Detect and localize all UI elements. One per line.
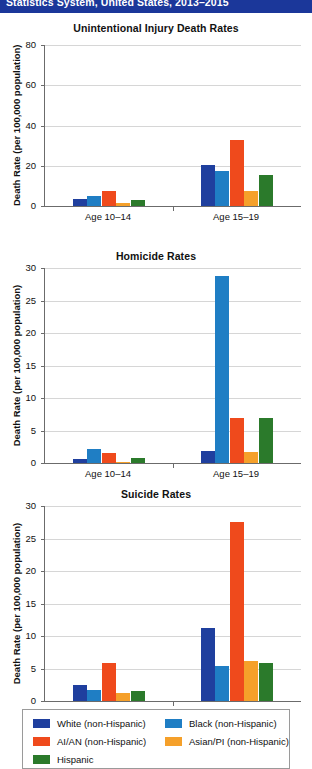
bar — [73, 459, 87, 463]
y-tick-label: 15 — [6, 360, 36, 371]
plot-area — [44, 45, 301, 207]
x-group-label: Age 15–19 — [172, 468, 300, 479]
y-tick-mark — [41, 85, 45, 86]
y-tick-mark — [41, 126, 45, 127]
bar — [244, 452, 258, 463]
y-tick-label: 20 — [6, 327, 36, 338]
y-tick-label: 0 — [6, 695, 36, 706]
chart-legend: White (non-Hispanic)Black (non-Hispanic)… — [22, 709, 290, 769]
legend-label: Asian/PI (non-Hispanic) — [189, 736, 289, 747]
y-tick-mark — [41, 669, 45, 670]
page-header-bar: Statistics System, United States, 2013–2… — [0, 0, 312, 13]
y-tick-mark — [41, 45, 45, 46]
legend-color-swatch — [33, 719, 50, 728]
bar — [259, 663, 273, 701]
bar — [201, 165, 215, 206]
legend-label: AI/AN (non-Hispanic) — [57, 736, 146, 747]
y-tick-label: 25 — [6, 295, 36, 306]
y-tick-mark — [41, 571, 45, 572]
y-tick-label: 5 — [6, 663, 36, 674]
bar — [131, 200, 145, 206]
y-tick-label: 60 — [6, 79, 36, 90]
gridline — [45, 398, 301, 399]
y-tick-mark — [41, 366, 45, 367]
gridline — [45, 636, 301, 637]
gridline — [45, 166, 301, 167]
bar — [244, 661, 258, 701]
legend-item: Asian/PI (non-Hispanic) — [165, 736, 289, 747]
legend-item: Hispanic — [33, 754, 93, 765]
y-tick-mark — [41, 333, 45, 334]
gridline — [45, 366, 301, 367]
bar — [230, 418, 244, 463]
bar — [102, 663, 116, 701]
gridline — [45, 45, 301, 46]
bar — [230, 140, 244, 206]
y-tick-mark — [41, 701, 45, 702]
y-tick-label: 10 — [6, 392, 36, 403]
y-tick-mark — [41, 636, 45, 637]
y-tick-label: 40 — [6, 120, 36, 131]
gridline — [45, 126, 301, 127]
legend-label: White (non-Hispanic) — [57, 718, 146, 729]
bar — [201, 451, 215, 463]
chart-title: Homicide Rates — [0, 250, 312, 262]
gridline — [45, 301, 301, 302]
legend-item: Black (non-Hispanic) — [165, 718, 277, 729]
bar — [73, 199, 87, 206]
bar — [102, 191, 116, 206]
bar — [87, 196, 101, 206]
gridline — [45, 85, 301, 86]
y-tick-mark — [41, 166, 45, 167]
x-axis-group-separator — [173, 207, 174, 211]
gridline — [45, 333, 301, 334]
chart-title: Unintentional Injury Death Rates — [0, 22, 312, 34]
page-header-title: Statistics System, United States, 2013–2… — [6, 0, 229, 8]
y-tick-mark — [41, 506, 45, 507]
y-tick-label: 0 — [6, 457, 36, 468]
bar — [201, 628, 215, 701]
gridline — [45, 604, 301, 605]
bar — [259, 418, 273, 464]
x-group-label: Age 10–14 — [44, 468, 172, 479]
gridline — [45, 539, 301, 540]
bar — [131, 691, 145, 701]
chart-title: Suicide Rates — [0, 488, 312, 500]
bar — [131, 458, 145, 463]
x-group-label: Age 10–14 — [44, 211, 172, 222]
y-tick-mark — [41, 398, 45, 399]
y-tick-label: 10 — [6, 630, 36, 641]
y-tick-label: 5 — [6, 425, 36, 436]
gridline — [45, 571, 301, 572]
x-group-label: Age 15–19 — [172, 211, 300, 222]
legend-color-swatch — [33, 737, 50, 746]
bar — [87, 449, 101, 463]
y-tick-mark — [41, 431, 45, 432]
y-tick-mark — [41, 463, 45, 464]
x-axis-group-separator — [173, 702, 174, 706]
x-axis-group-separator — [173, 464, 174, 468]
y-tick-label: 25 — [6, 533, 36, 544]
gridline — [45, 506, 301, 507]
legend-item: AI/AN (non-Hispanic) — [33, 736, 146, 747]
bar — [215, 276, 229, 463]
y-tick-label: 30 — [6, 262, 36, 273]
y-tick-mark — [41, 206, 45, 207]
y-tick-mark — [41, 604, 45, 605]
gridline — [45, 268, 301, 269]
bar — [244, 191, 258, 206]
y-tick-label: 80 — [6, 39, 36, 50]
y-tick-label: 20 — [6, 565, 36, 576]
legend-item: White (non-Hispanic) — [33, 718, 146, 729]
bar — [215, 171, 229, 206]
legend-label: Hispanic — [57, 754, 93, 765]
bar — [102, 453, 116, 463]
y-tick-label: 20 — [6, 160, 36, 171]
bar — [116, 693, 130, 701]
plot-area — [44, 268, 301, 464]
bar — [116, 462, 130, 463]
bar — [116, 203, 130, 206]
bar — [87, 690, 101, 701]
y-tick-mark — [41, 539, 45, 540]
legend-label: Black (non-Hispanic) — [189, 718, 277, 729]
